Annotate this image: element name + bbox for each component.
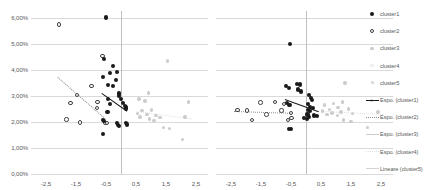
x-axis-tick-label: 1,5 <box>152 180 180 187</box>
legend-item-espo-cluster1[interactable]: Espo. (cluster1) <box>364 94 446 106</box>
data-point-cluster3 <box>349 120 353 124</box>
data-point-cluster2 <box>68 101 72 105</box>
data-point-cluster3 <box>181 138 185 142</box>
y-axis-tick-label: 5,00% <box>1 40 28 47</box>
legend-label: cluster4 <box>380 63 399 69</box>
gridline-horizontal <box>31 174 208 175</box>
legend-label: Espo. (cluster2) <box>380 114 418 120</box>
y-axis-tick-label: 0,00% <box>1 170 28 177</box>
data-point-cluster1 <box>114 78 118 82</box>
data-point-cluster3 <box>183 115 187 119</box>
data-point-cluster2 <box>264 112 268 116</box>
y-axis-tick-label: 4,00% <box>1 66 28 73</box>
data-point-cluster3 <box>332 102 336 106</box>
scatter-chart-right: -2,5-1,5-0,50,51,52,5 <box>214 0 362 190</box>
data-point-cluster1 <box>108 102 112 106</box>
x-axis-tick-label: 0,5 <box>122 180 150 187</box>
legend-label: Lineare (cluster5) <box>380 166 423 172</box>
data-point-cluster1 <box>298 82 302 86</box>
legend-label: cluster5 <box>380 80 399 86</box>
gridline-horizontal <box>31 122 208 123</box>
x-axis-tick-label: -1,5 <box>62 180 90 187</box>
legend-swatch-filled-dark-icon <box>364 12 380 16</box>
legend-item-cluster1[interactable]: cluster1 <box>364 8 446 20</box>
gridline-horizontal <box>31 44 208 45</box>
trendline <box>57 77 105 119</box>
data-point-cluster3 <box>336 106 340 110</box>
data-point-cluster3 <box>321 109 325 113</box>
data-point-cluster1 <box>305 117 309 121</box>
data-point-cluster3 <box>148 117 152 121</box>
data-point-cluster2 <box>250 118 254 122</box>
legend-item-lineare-cluster5[interactable]: Lineare (cluster5) <box>364 163 446 175</box>
data-point-cluster1 <box>104 15 108 19</box>
data-point-cluster2 <box>64 117 68 121</box>
data-point-cluster3 <box>339 110 343 114</box>
data-point-cluster2 <box>78 120 82 124</box>
legend-item-cluster4[interactable]: cluster4 <box>364 60 446 72</box>
data-point-cluster1 <box>105 110 109 114</box>
data-point-cluster2 <box>95 106 99 110</box>
data-point-cluster3 <box>187 100 191 104</box>
x-axis-tick-label: -2,5 <box>217 180 245 187</box>
data-point-cluster1 <box>289 127 293 131</box>
data-point-cluster2 <box>289 111 293 115</box>
legend-item-espo-cluster3[interactable]: Espo. (cluster3) <box>364 128 446 140</box>
data-point-cluster1 <box>117 124 121 128</box>
data-point-cluster3 <box>336 114 340 118</box>
data-point-cluster1 <box>124 107 128 111</box>
data-point-cluster2 <box>273 100 277 104</box>
gridline-horizontal <box>31 70 208 71</box>
data-point-cluster1 <box>288 42 292 46</box>
data-point-cluster1 <box>315 114 319 118</box>
data-point-cluster3 <box>137 97 141 101</box>
y-axis-line <box>121 11 122 174</box>
data-point-cluster3 <box>162 126 166 130</box>
legend-item-espo-cluster2[interactable]: Espo. (cluster2) <box>364 111 446 123</box>
data-point-cluster3 <box>147 91 151 95</box>
y-axis-tick-label: 1,00% <box>1 144 28 151</box>
data-point-cluster3 <box>150 108 154 112</box>
gridline-horizontal <box>31 18 208 19</box>
scatter-chart-left: 0,00%1,00%2,00%3,00%4,00%5,00%6,00%-2,5-… <box>0 0 212 190</box>
legend-swatch-open-icon <box>364 29 380 33</box>
legend-item-cluster3[interactable]: cluster3 <box>364 42 446 54</box>
data-point-cluster3 <box>343 81 347 85</box>
data-point-cluster2 <box>95 100 99 104</box>
x-axis-tick-label: -2,5 <box>32 180 60 187</box>
data-point-cluster1 <box>115 70 119 74</box>
data-point-cluster1 <box>310 98 314 102</box>
data-point-cluster3 <box>323 103 327 107</box>
data-point-cluster2 <box>258 100 262 104</box>
data-point-cluster3 <box>347 107 351 111</box>
legend-swatch-solid-dark-icon <box>364 100 380 101</box>
y-axis-tick-label: 6,00% <box>1 14 28 21</box>
data-point-cluster3 <box>166 59 170 63</box>
x-axis-tick-label: 2,5 <box>182 180 210 187</box>
legend-item-cluster5[interactable]: cluster5 <box>364 77 446 89</box>
legend-label: cluster1 <box>380 11 399 17</box>
legend-swatch-filled-light-icon <box>364 47 380 50</box>
data-point-cluster3 <box>138 115 142 119</box>
data-point-cluster1 <box>111 84 115 88</box>
data-point-cluster3 <box>325 113 329 117</box>
x-axis-tick-label: -0,5 <box>277 180 305 187</box>
legend-item-espo-cluster4[interactable]: Espo. (cluster4) <box>364 146 446 158</box>
data-point-cluster3 <box>145 113 149 117</box>
x-axis-tick-label: 1,5 <box>337 180 365 187</box>
y-axis-tick-label: 2,00% <box>1 118 28 125</box>
data-point-cluster2 <box>57 22 61 26</box>
data-point-cluster1 <box>101 75 105 79</box>
legend-swatch-solid-light-icon <box>364 134 380 135</box>
legend-label: cluster2 <box>380 28 399 34</box>
legend-item-cluster2[interactable]: cluster2 <box>364 25 446 37</box>
gridline-horizontal <box>31 148 208 149</box>
plot-area-left: 0,00%1,00%2,00%3,00%4,00%5,00%6,00%-2,5-… <box>31 11 208 174</box>
y-axis-tick-label: 3,00% <box>1 92 28 99</box>
legend-swatch-dotted-gray-icon <box>364 117 380 118</box>
legend-label: Espo. (cluster1) <box>380 97 418 103</box>
data-point-cluster3 <box>168 127 172 131</box>
data-point-cluster1 <box>299 89 303 93</box>
chart-figure: 0,00%1,00%2,00%3,00%4,00%5,00%6,00%-2,5-… <box>0 0 446 190</box>
data-point-cluster3 <box>143 99 147 103</box>
